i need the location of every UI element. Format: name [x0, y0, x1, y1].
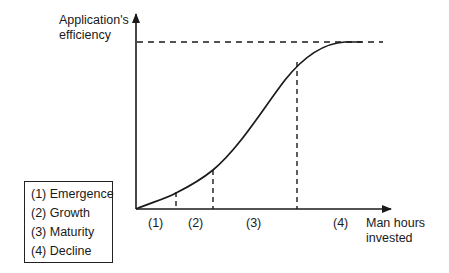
legend-item-maturity: (3) Maturity: [31, 223, 112, 242]
s-curve: [136, 42, 362, 209]
y-axis-label-line2: efficiency: [59, 28, 111, 43]
phase-marker-3: (3): [246, 216, 261, 231]
legend-box: (1) Emergence (2) Growth (3) Maturity (4…: [24, 181, 113, 263]
phase-marker-4: (4): [333, 216, 348, 231]
phase-marker-2: (2): [188, 216, 203, 231]
legend-item-emergence: (1) Emergence: [31, 185, 112, 204]
y-axis-label-line1: Application's: [59, 13, 129, 28]
legend-item-growth: (2) Growth: [31, 204, 112, 223]
x-axis-label-line2: invested: [366, 231, 413, 246]
legend-item-decline: (4) Decline: [31, 242, 112, 261]
x-axis-label-line1: Man hours: [366, 216, 425, 231]
phase-marker-1: (1): [148, 216, 163, 231]
